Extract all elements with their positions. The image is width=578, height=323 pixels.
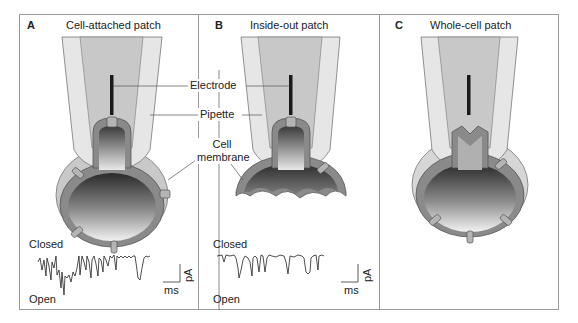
callout-electrode: Electrode bbox=[188, 79, 238, 92]
patch-clamp-illustration bbox=[0, 0, 578, 323]
trace-b-pa-label: pA bbox=[361, 269, 373, 282]
scale-bar-b bbox=[341, 264, 358, 282]
trace-a-closed-label: Closed bbox=[29, 238, 63, 250]
trace-a bbox=[38, 255, 150, 295]
panel-b-title: Inside-out patch bbox=[250, 19, 328, 31]
callout-membrane: Cell membrane bbox=[195, 138, 249, 164]
panel-a-letter: A bbox=[27, 19, 35, 31]
trace-a-open-label: Open bbox=[29, 293, 56, 305]
scale-bar-a bbox=[163, 264, 180, 282]
trace-b bbox=[217, 255, 324, 278]
trace-b-closed-label: Closed bbox=[213, 238, 247, 250]
panel-b-letter: B bbox=[215, 19, 223, 31]
trace-b-ms-label: ms bbox=[344, 284, 359, 296]
panel-c-art bbox=[412, 37, 528, 243]
panel-b-art bbox=[236, 37, 346, 198]
trace-a-ms-label: ms bbox=[164, 284, 179, 296]
trace-b-open-label: Open bbox=[213, 293, 240, 305]
panel-c-letter: C bbox=[395, 19, 403, 31]
panel-a-title: Cell-attached patch bbox=[66, 19, 161, 31]
trace-a-pa-label: pA bbox=[182, 269, 194, 282]
panel-a-art bbox=[56, 37, 170, 253]
panel-c-title: Whole-cell patch bbox=[430, 19, 511, 31]
callout-membrane-line1: Cell bbox=[213, 138, 232, 150]
callout-membrane-line2: membrane bbox=[197, 151, 250, 163]
callout-pipette: Pipette bbox=[198, 108, 236, 121]
